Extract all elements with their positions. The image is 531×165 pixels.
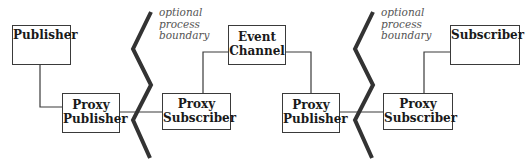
note-2-line1: optional xyxy=(381,7,432,19)
process-boundary-zigzag-2 xyxy=(355,12,373,158)
process-boundary-note-1: optional process boundary xyxy=(159,7,210,42)
event-channel-label-line2: Channel xyxy=(229,44,285,58)
proxy-publisher-1-label-line2: Publisher xyxy=(63,112,119,126)
edge-event-channel-proxy-publisher xyxy=(286,52,311,93)
proxy-subscriber-1-label-line1: Proxy xyxy=(163,97,230,111)
diagram-canvas: Publisher Proxy Publisher Proxy Subscrib… xyxy=(0,0,531,165)
proxy-publisher-2-label-line1: Proxy xyxy=(283,98,339,112)
proxy-subscriber-box-1: Proxy Subscriber xyxy=(162,93,231,130)
proxy-publisher-box-1: Proxy Publisher xyxy=(62,93,120,133)
proxy-subscriber-2-label-line2: Subscriber xyxy=(384,111,452,125)
event-channel-box: Event Channel xyxy=(228,25,286,65)
event-channel-label-line1: Event xyxy=(229,30,285,44)
proxy-subscriber-box-2: Proxy Subscriber xyxy=(383,93,453,130)
proxy-publisher-1-label-line1: Proxy xyxy=(63,98,119,112)
edge-proxy-subscriber-event-channel xyxy=(203,52,228,93)
edge-proxy-subscriber-subscriber xyxy=(424,52,450,93)
proxy-subscriber-2-label-line1: Proxy xyxy=(384,97,452,111)
process-boundary-note-2: optional process boundary xyxy=(381,7,432,42)
proxy-publisher-box-2: Proxy Publisher xyxy=(282,93,340,133)
note-1-line3: boundary xyxy=(159,30,210,42)
proxy-publisher-2-label-line2: Publisher xyxy=(283,112,339,126)
proxy-subscriber-1-label-line2: Subscriber xyxy=(163,111,230,125)
process-boundary-zigzag-1 xyxy=(133,12,151,158)
publisher-box: Publisher xyxy=(12,25,71,65)
edge-publisher-proxy-publisher xyxy=(40,65,62,107)
subscriber-label: Subscriber xyxy=(451,28,519,42)
publisher-label: Publisher xyxy=(13,28,70,42)
note-1-line1: optional xyxy=(159,7,210,19)
subscriber-box: Subscriber xyxy=(450,25,520,65)
note-2-line3: boundary xyxy=(381,30,432,42)
